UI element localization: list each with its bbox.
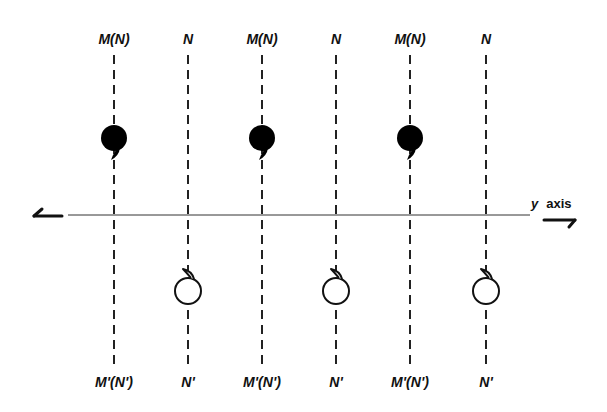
top-label-6: N <box>481 31 491 47</box>
left-arrow-icon <box>34 209 62 216</box>
open-hook-icon <box>473 269 499 304</box>
filled-comma-icon <box>101 125 127 160</box>
bottom-label-5: M'(N') <box>391 374 429 390</box>
axis-word: axis <box>546 196 571 211</box>
bottom-label-6: N' <box>479 374 492 390</box>
top-label-4: N <box>331 31 341 47</box>
diagram-canvas <box>0 0 607 412</box>
top-label-3: M(N) <box>246 31 277 47</box>
bottom-label-2: N' <box>181 374 194 390</box>
axis-label: yaxis <box>531 196 572 211</box>
bottom-label-4: N' <box>329 374 342 390</box>
top-label-5: M(N) <box>394 31 425 47</box>
open-hook-icon <box>323 269 349 304</box>
bottom-label-1: M'(N') <box>95 374 133 390</box>
filled-comma-icon <box>249 125 275 160</box>
top-label-2: N <box>183 31 193 47</box>
column-lines <box>114 55 486 370</box>
glide-symmetry-diagram: M(N) N M(N) N M(N) N M'(N') N' M'(N') N'… <box>0 0 607 412</box>
axis-variable: y <box>531 196 538 211</box>
right-arrow-icon <box>544 220 575 227</box>
open-hook-icon <box>175 269 201 304</box>
bottom-label-3: M'(N') <box>243 374 281 390</box>
top-label-1: M(N) <box>98 31 129 47</box>
filled-comma-icon <box>397 125 423 160</box>
